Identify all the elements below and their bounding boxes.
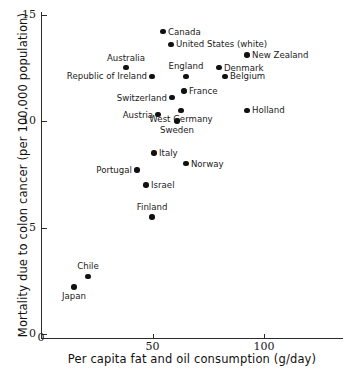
- data-point: [149, 74, 154, 79]
- data-point: [71, 284, 76, 289]
- data-point: [143, 182, 148, 187]
- data-point-label: Switzerland: [117, 93, 167, 102]
- data-point: [85, 274, 90, 279]
- data-point: [134, 167, 139, 172]
- data-point: [222, 74, 227, 79]
- data-point-label: New Zealand: [252, 50, 308, 59]
- x-axis-title: Per capita fat and oil consumption (g/da…: [41, 352, 343, 366]
- data-point-label: Sweden: [160, 126, 194, 135]
- data-point: [244, 52, 249, 57]
- data-point-label: Australia: [107, 54, 145, 63]
- x-tick-mark: [264, 334, 265, 339]
- data-point: [160, 29, 165, 34]
- data-point-label: Israel: [151, 180, 175, 189]
- data-point: [183, 74, 188, 79]
- data-point-label: United States (white): [176, 40, 267, 49]
- data-point: [149, 214, 154, 219]
- plot-area: 051015 050100 CanadaUnited States (white…: [0, 0, 350, 373]
- data-point-label: France: [189, 87, 218, 96]
- data-point-label: Italy: [159, 148, 178, 157]
- data-point-label: Holland: [252, 106, 285, 115]
- y-axis-line: [41, 12, 42, 339]
- data-point: [169, 95, 174, 100]
- data-point-label: England: [168, 62, 203, 71]
- y-tick-mark: [42, 15, 47, 16]
- data-point: [181, 88, 186, 93]
- y-tick-mark: [42, 228, 47, 229]
- data-point-label: Republic of Ireland: [67, 72, 147, 81]
- data-point: [216, 65, 221, 70]
- data-point-label: Belgium: [230, 72, 265, 81]
- data-point-label: Norway: [191, 159, 224, 168]
- data-point: [123, 65, 128, 70]
- y-axis-title: Mortality due to colon cancer (per 100,0…: [16, 10, 30, 340]
- data-point: [178, 108, 183, 113]
- data-point-label: Chile: [77, 262, 99, 271]
- data-point: [244, 108, 249, 113]
- data-point-label: Austria: [123, 110, 153, 119]
- data-point: [168, 42, 173, 47]
- data-point: [183, 161, 188, 166]
- data-point-label: Finland: [137, 203, 168, 212]
- data-point-label: Canada: [168, 27, 201, 36]
- data-point-label: Portugal: [96, 165, 132, 174]
- data-point: [174, 118, 179, 123]
- data-point: [155, 112, 160, 117]
- y-tick-mark: [42, 121, 47, 122]
- x-tick-mark: [153, 334, 154, 339]
- scatter-plot-figure: 051015 050100 CanadaUnited States (white…: [0, 0, 350, 373]
- x-axis-line: [41, 338, 343, 339]
- data-point: [151, 150, 156, 155]
- data-point-label: Japan: [62, 292, 86, 301]
